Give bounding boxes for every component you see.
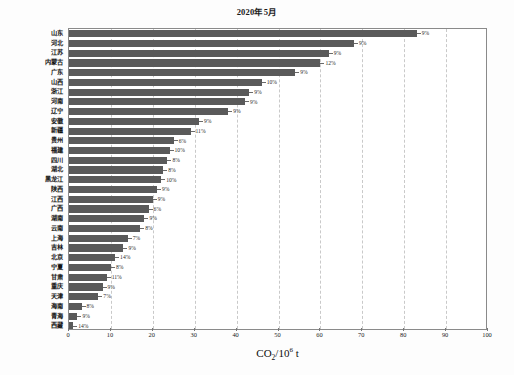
x-axis-title-base: CO: [256, 347, 271, 359]
bar-row: 12%: [69, 58, 486, 68]
bar-leader-line: [161, 179, 165, 180]
bar-value-label: 9%: [162, 185, 169, 194]
bar-row: 14%: [69, 253, 486, 263]
bar: [69, 215, 144, 222]
bar-value-label: 8%: [168, 166, 175, 175]
bar-value-label: 7%: [103, 292, 110, 301]
bar-row: 9%: [69, 97, 486, 107]
y-axis-tick-label: 新疆: [51, 125, 63, 135]
bar-row: 9%: [69, 312, 486, 322]
bar-row: 7%: [69, 292, 486, 302]
bar: [69, 166, 163, 173]
bar: [69, 196, 153, 203]
bar-leader-line: [354, 43, 358, 44]
bar-row: 8%: [69, 156, 486, 166]
y-axis-tick-label: 湖南: [51, 213, 63, 223]
y-axis-tick-label: 西藏: [51, 320, 63, 330]
bar-leader-line: [82, 306, 86, 307]
bar-row: 10%: [69, 78, 486, 88]
bar-row: 9%: [69, 29, 486, 39]
y-axis-tick-label: 江苏: [51, 47, 63, 57]
bar-value-label: 11%: [112, 273, 122, 282]
bar-row: 9%: [69, 185, 486, 195]
y-axis-tick-label: 陕西: [51, 184, 63, 194]
y-axis-tick-label: 福建: [51, 145, 63, 155]
bar-leader-line: [174, 140, 178, 141]
bar-row: 10%: [69, 175, 486, 185]
x-axis-tick-label: 50: [274, 331, 280, 338]
x-axis-title-unit: t: [293, 347, 299, 359]
x-axis-ticks: 0102030405060708090100: [68, 331, 487, 345]
bar-value-label: 10%: [267, 78, 277, 87]
bar-leader-line: [153, 199, 157, 200]
y-axis-tick-label: 宁夏: [51, 262, 63, 272]
bar-value-label: 10%: [166, 176, 176, 185]
bar-row: 11%: [69, 273, 486, 283]
bar: [69, 79, 262, 86]
bar-value-label: 9%: [108, 283, 115, 292]
bar: [69, 254, 115, 261]
bar: [69, 264, 111, 271]
bar-leader-line: [123, 248, 127, 249]
bar-value-label: 12%: [325, 59, 335, 68]
bar-leader-line: [144, 218, 148, 219]
bar: [69, 176, 161, 183]
x-axis-tick-label: 100: [482, 331, 492, 338]
bar-value-label: 11%: [196, 127, 206, 136]
bar-row: 9%: [69, 195, 486, 205]
bar-leader-line: [98, 296, 102, 297]
y-axis-tick-label: 安徽: [51, 116, 63, 126]
x-axis-tick-label: 80: [400, 331, 406, 338]
bar-row: 11%: [69, 126, 486, 136]
bar: [69, 98, 245, 105]
y-axis-tick-label: 河南: [51, 96, 63, 106]
y-axis-tick-label: 内蒙古: [45, 57, 63, 67]
bar: [69, 303, 82, 310]
x-axis-tick-label: 10: [107, 331, 113, 338]
bar: [69, 118, 199, 125]
bar-leader-line: [170, 150, 174, 151]
bar-value-label: 9%: [334, 49, 341, 58]
bar-row: 9%: [69, 282, 486, 292]
y-axis-tick-label: 浙江: [51, 86, 63, 96]
y-axis-tick-label: 贵州: [51, 135, 63, 145]
bar-value-label: 9%: [204, 117, 211, 126]
bar: [69, 30, 417, 37]
bar: [69, 205, 149, 212]
bar-value-label: 9%: [128, 244, 135, 253]
bar-leader-line: [329, 53, 333, 54]
bar-row: 8%: [69, 263, 486, 273]
bar-value-label: 9%: [359, 39, 366, 48]
bar-leader-line: [77, 316, 81, 317]
bar-value-label: 8%: [87, 302, 94, 311]
y-axis-tick-label: 四川: [51, 155, 63, 165]
bar-leader-line: [107, 277, 111, 278]
bar-value-label: 10%: [175, 146, 185, 155]
bar-row: 6%: [69, 136, 486, 146]
bar-leader-line: [167, 160, 171, 161]
bar: [69, 137, 174, 144]
bar-row: 9%: [69, 117, 486, 127]
bar-row: 9%: [69, 107, 486, 117]
y-axis-tick-label: 重庆: [51, 281, 63, 291]
bar-leader-line: [199, 121, 203, 122]
bar-leader-line: [320, 63, 324, 64]
y-axis-tick-label: 海南: [51, 301, 63, 311]
bar: [69, 235, 128, 242]
x-axis-title: CO2/106 t: [68, 346, 487, 362]
bar: [69, 274, 107, 281]
y-axis-tick-label: 天津: [51, 291, 63, 301]
x-axis-tick-label: 30: [190, 331, 196, 338]
bar: [69, 313, 77, 320]
bar-value-label: 9%: [82, 312, 89, 321]
bar-row: 7%: [69, 234, 486, 244]
y-axis-tick-label: 湖北: [51, 164, 63, 174]
bar-value-label: 14%: [120, 253, 130, 262]
y-axis-tick-label: 云南: [51, 223, 63, 233]
bar-value-label: 9%: [300, 68, 307, 77]
bar: [69, 186, 157, 193]
bar-leader-line: [157, 189, 161, 190]
bar-leader-line: [295, 72, 299, 73]
plot-area: 9%9%9%12%9%10%9%9%9%9%11%6%10%8%8%10%9%9…: [68, 28, 487, 330]
y-axis-tick-label: 青海: [51, 311, 63, 321]
